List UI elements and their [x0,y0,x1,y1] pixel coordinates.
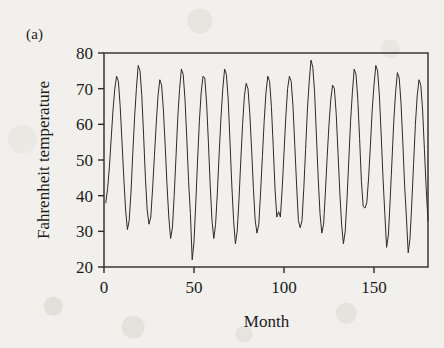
y-tick-label: 50 [76,151,93,170]
chart-svg: 20304050607080 050100150 [0,0,444,348]
y-tick-label: 20 [76,258,93,277]
y-tick-label: 40 [76,187,93,206]
x-axis-ticks [104,267,374,273]
chart-plot-area: 20304050607080 050100150 [0,0,444,348]
y-tick-label: 60 [76,115,93,134]
y-tick-label: 80 [76,44,93,63]
x-tick-label: 50 [186,278,203,297]
y-axis-ticks [98,53,104,267]
x-tick-label: 100 [271,278,297,297]
x-tick-label: 150 [361,278,387,297]
temperature-series-line [106,60,428,260]
y-axis-tick-labels: 20304050607080 [76,44,93,277]
y-tick-label: 70 [76,80,93,99]
y-tick-label: 30 [76,222,93,241]
x-tick-label: 0 [100,278,109,297]
plot-frame [104,53,428,267]
x-axis-tick-labels: 050100150 [100,278,387,297]
